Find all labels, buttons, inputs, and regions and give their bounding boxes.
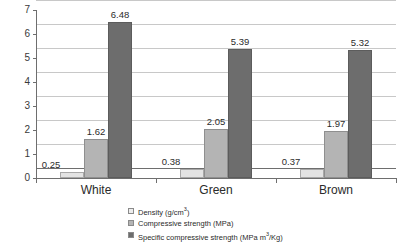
bar-value-label: 0.37 [276, 157, 306, 167]
y-axis-tick-label: 5 [4, 53, 30, 63]
category-label-brown: Brown [276, 183, 396, 197]
y-axis-tick-label: 4 [4, 77, 30, 87]
category-divider-tick [396, 178, 397, 183]
chart-legend: Density (g/cm3)Compressive strength (MPa… [128, 205, 283, 241]
y-axis-tick-label: 1 [4, 149, 30, 159]
legend-swatch-icon [128, 208, 134, 214]
y-axis-tick-label: 7 [4, 5, 30, 15]
legend-item[interactable]: Density (g/cm3) [128, 205, 283, 217]
legend-swatch-icon [128, 220, 134, 226]
bar-value-label: 0.25 [36, 160, 66, 170]
bar [84, 139, 108, 178]
bar-value-label: 1.97 [321, 119, 351, 129]
category-divider-tick [36, 178, 37, 183]
bar [324, 131, 348, 178]
bar-value-label: 5.32 [345, 38, 375, 48]
plot-area: 0.251.626.480.382.055.390.371.975.32 [36, 10, 396, 178]
bar-value-label: 2.05 [201, 117, 231, 127]
y-axis-tick-label: 0 [4, 173, 30, 183]
bar [228, 49, 252, 178]
x-axis-line [36, 178, 396, 179]
legend-item[interactable]: Compressive strength (MPa) [128, 219, 283, 228]
legend-item[interactable]: Specific compressive strength (MPa m3/Kg… [128, 230, 283, 242]
bar-value-label: 1.62 [81, 127, 111, 137]
legend-label: Compressive strength (MPa) [138, 219, 233, 228]
bar-group: 0.371.975.32 [300, 10, 372, 178]
bar [204, 129, 228, 178]
bar [300, 169, 324, 178]
bar-group: 0.382.055.39 [180, 10, 252, 178]
legend-label: Specific compressive strength (MPa m3/Kg… [138, 230, 283, 242]
bar [348, 50, 372, 178]
y-axis-tick-label: 6 [4, 29, 30, 39]
bar-value-label: 6.48 [105, 10, 135, 20]
bar-chart: 01234567 0.251.626.480.382.055.390.371.9… [0, 0, 400, 249]
category-label-green: Green [156, 183, 276, 197]
y-axis-tick-label: 2 [4, 125, 30, 135]
bar [108, 22, 132, 178]
bar-group: 0.251.626.48 [60, 10, 132, 178]
bar-value-label: 5.39 [225, 37, 255, 47]
legend-swatch-icon [128, 232, 134, 238]
bar [180, 169, 204, 178]
category-label-white: White [36, 183, 156, 197]
legend-label: Density (g/cm3) [138, 205, 189, 217]
bar-value-label: 0.38 [156, 157, 186, 167]
gridline [36, 0, 396, 1]
bar [60, 172, 84, 178]
y-axis-tick-label: 3 [4, 101, 30, 111]
